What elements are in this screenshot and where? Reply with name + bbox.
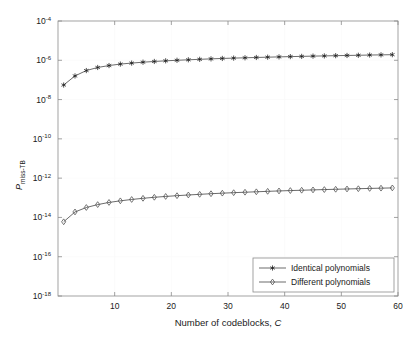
x-tick-label: 30: [223, 301, 233, 311]
x-tick-label: 20: [167, 301, 177, 311]
y-tick-exponent: -14: [42, 212, 51, 218]
y-tick-exponent: -6: [46, 55, 52, 61]
x-axis-label-text: Number of codeblocks, C: [175, 317, 282, 328]
x-tick-label: 60: [393, 301, 403, 311]
x-tick-label: 50: [337, 301, 347, 311]
x-axis-label: Number of codeblocks, C: [175, 317, 282, 328]
x-tick-label: 40: [280, 301, 290, 311]
y-tick-exponent: -10: [42, 133, 51, 139]
y-tick-exponent: -16: [42, 251, 51, 257]
y-tick-exponent: -18: [42, 291, 51, 297]
y-tick-exponent: -4: [46, 16, 52, 22]
legend-label-identical: Identical polynomials: [291, 263, 370, 273]
x-tick-label: 10: [110, 301, 120, 311]
y-tick-exponent: -12: [42, 173, 51, 179]
chart-legend[interactable]: Identical polynomials Different polynomi…: [253, 258, 394, 292]
chart-figure: 10-410-610-810-1010-1210-1410-1610-18 10…: [0, 0, 419, 339]
y-tick-exponent: -8: [46, 94, 52, 100]
legend-label-different: Different polynomials: [291, 277, 370, 287]
y-axis-label-subscript: miss-TB: [19, 160, 26, 184]
